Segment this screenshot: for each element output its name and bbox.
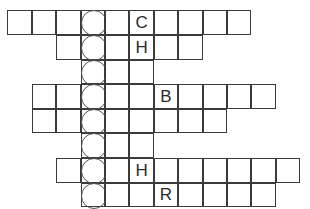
puzzle-cell[interactable]	[154, 35, 178, 60]
puzzle-cell[interactable]	[32, 84, 56, 109]
puzzle-cell[interactable]	[178, 158, 202, 183]
puzzle-cell[interactable]: R	[154, 183, 178, 208]
puzzle-cell[interactable]	[251, 84, 275, 109]
puzzle-cell[interactable]	[56, 84, 80, 109]
puzzle-cell[interactable]	[227, 84, 251, 109]
puzzle-cell[interactable]	[105, 158, 129, 183]
puzzle-cell[interactable]	[178, 10, 202, 35]
circled-answer-cell[interactable]	[81, 133, 105, 158]
puzzle-cell[interactable]	[154, 109, 178, 134]
puzzle-cell[interactable]	[129, 109, 153, 134]
puzzle-cell[interactable]	[203, 158, 227, 183]
puzzle-cell[interactable]	[203, 10, 227, 35]
given-letter: B	[160, 88, 171, 105]
puzzle-cell[interactable]	[32, 10, 56, 35]
circled-answer-cell[interactable]	[81, 60, 105, 85]
puzzle-cell[interactable]	[251, 183, 275, 208]
puzzle-cell[interactable]	[203, 84, 227, 109]
circled-answer-cell[interactable]	[81, 10, 105, 35]
given-letter: R	[160, 186, 172, 203]
puzzle-cell[interactable]	[178, 183, 202, 208]
puzzle-cell[interactable]	[129, 84, 153, 109]
puzzle-cell[interactable]	[32, 109, 56, 134]
puzzle-cell[interactable]	[129, 60, 153, 85]
puzzle-cell[interactable]: H	[129, 35, 153, 60]
circled-answer-cell[interactable]	[81, 109, 105, 134]
puzzle-cell[interactable]	[56, 158, 80, 183]
crossword-grid: CHBHR	[0, 0, 310, 209]
puzzle-cell[interactable]	[129, 133, 153, 158]
puzzle-cell[interactable]	[178, 109, 202, 134]
puzzle-cell[interactable]	[227, 183, 251, 208]
puzzle-cell[interactable]	[56, 35, 80, 60]
puzzle-cell[interactable]	[227, 10, 251, 35]
puzzle-cell[interactable]	[276, 158, 300, 183]
given-letter: H	[135, 39, 147, 56]
puzzle-cell[interactable]	[154, 10, 178, 35]
puzzle-cell[interactable]	[56, 10, 80, 35]
puzzle-cell[interactable]	[105, 10, 129, 35]
puzzle-cell[interactable]	[105, 60, 129, 85]
puzzle-cell[interactable]	[105, 35, 129, 60]
puzzle-cell[interactable]	[105, 109, 129, 134]
puzzle-cell[interactable]	[154, 158, 178, 183]
puzzle-cell[interactable]	[251, 158, 275, 183]
circled-answer-cell[interactable]	[81, 158, 105, 183]
circled-answer-cell[interactable]	[81, 84, 105, 109]
given-letter: C	[135, 14, 147, 31]
puzzle-cell[interactable]	[105, 183, 129, 208]
puzzle-cell[interactable]	[227, 158, 251, 183]
circled-answer-cell[interactable]	[81, 183, 105, 208]
puzzle-cell[interactable]	[56, 109, 80, 134]
puzzle-cell[interactable]	[178, 84, 202, 109]
puzzle-cell[interactable]	[129, 183, 153, 208]
puzzle-cell[interactable]	[105, 133, 129, 158]
given-letter: H	[135, 162, 147, 179]
puzzle-cell[interactable]	[178, 35, 202, 60]
circled-answer-cell[interactable]	[81, 35, 105, 60]
puzzle-cell[interactable]: B	[154, 84, 178, 109]
puzzle-cell[interactable]	[105, 84, 129, 109]
puzzle-cell[interactable]	[203, 183, 227, 208]
puzzle-cell[interactable]: C	[129, 10, 153, 35]
puzzle-cell[interactable]: H	[129, 158, 153, 183]
puzzle-cell[interactable]	[203, 109, 227, 134]
puzzle-cell[interactable]	[7, 10, 31, 35]
